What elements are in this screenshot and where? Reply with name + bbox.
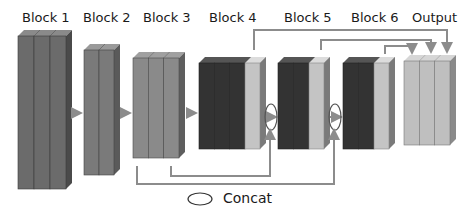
block-6-label: Block 6 (351, 10, 399, 25)
concat-legend-label: Concat (223, 190, 272, 206)
output-block (404, 55, 456, 145)
output-label: Output (412, 10, 457, 25)
block-6 (343, 57, 395, 149)
block-3 (133, 52, 185, 158)
block-4-label: Block 4 (209, 10, 257, 25)
block-5-label: Block 5 (284, 10, 332, 25)
block-2 (84, 44, 120, 175)
block-1-label: Block 1 (22, 10, 70, 25)
block-3-label: Block 3 (143, 10, 191, 25)
skip-connections-top (254, 30, 447, 54)
block-4 (199, 57, 266, 149)
concat-legend-icon (188, 193, 212, 205)
architecture-diagram (0, 0, 472, 219)
block-2-label: Block 2 (83, 10, 131, 25)
block-5 (278, 57, 330, 149)
block-1 (18, 30, 72, 189)
